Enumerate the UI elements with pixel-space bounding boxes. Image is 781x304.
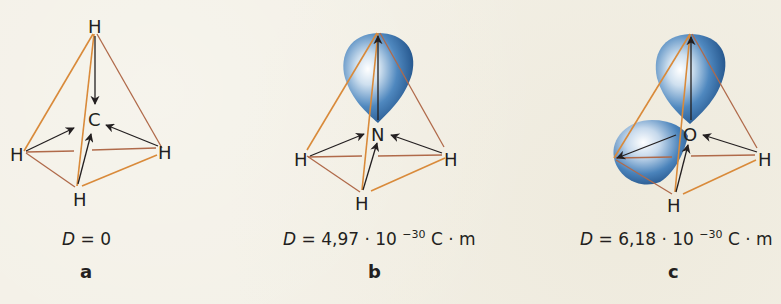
atom-o-central: O [683, 124, 697, 145]
panel-c-water: O H H D = 6,18 · 10 −30 C · m c [580, 34, 773, 282]
panel-label-b: b [368, 261, 381, 282]
atom-h-left: H [294, 149, 308, 170]
dipole-moment-b: D = 4,97 · 10 −30 C · m [283, 222, 476, 249]
atom-h-right: H [758, 149, 772, 170]
atom-h-right: H [444, 149, 458, 170]
molecular-dipole-figure: H C H H H D = 0 a N H [0, 0, 781, 304]
atom-h-left: H [10, 144, 24, 165]
atom-h-bottom: H [355, 193, 369, 214]
atom-n-central: N [371, 124, 384, 145]
panel-b-ammonia: N H H H D = 4,97 · 10 −30 C · m b [283, 33, 476, 282]
dipole-moment-c: D = 6,18 · 10 −30 C · m [580, 222, 773, 249]
atom-c-central: C [88, 109, 101, 130]
panel-label-c: c [668, 261, 679, 282]
panel-label-a: a [80, 261, 92, 282]
dipole-moment-a: D = 0 [62, 229, 111, 249]
panel-a-methane: H C H H H D = 0 a [10, 16, 172, 282]
atom-h-bottom: H [73, 189, 87, 210]
atom-h-right: H [158, 142, 172, 163]
atom-h-top: H [88, 16, 102, 37]
atom-h-bottom: H [667, 195, 681, 216]
